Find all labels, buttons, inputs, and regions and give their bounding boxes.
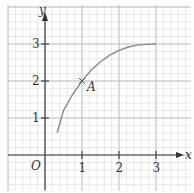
origin-label: O [31,159,41,173]
x-tick-label: 3 [153,161,161,175]
x-tick-label: 2 [116,161,124,175]
x-axis-label: x [185,148,192,162]
point-label: A [86,80,96,94]
y-tick-label: 1 [32,111,40,125]
y-tick-label: 2 [32,74,40,88]
y-axis-label: y [38,3,46,17]
x-tick-label: 1 [79,161,87,175]
y-tick-label: 3 [32,37,40,51]
plot-area: 123123 A x y O [0,0,194,193]
x-axis-arrow-icon [176,152,184,158]
